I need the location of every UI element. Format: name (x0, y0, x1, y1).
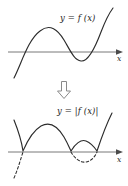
x-axis-label-original: x (117, 55, 121, 63)
graph-panel-absolute: y = |f (x)| x (0, 100, 128, 186)
function-label-absolute: y = |f (x)| (57, 107, 98, 116)
arrow-outline (58, 82, 71, 99)
transform-down-arrow-icon (54, 80, 74, 100)
graph-panel-original: y = f (x) x (0, 0, 128, 82)
function-label-original: y = f (x) (60, 14, 96, 23)
hollow-down-arrow-icon (54, 80, 74, 100)
curve-absolute-f-of-x (14, 113, 112, 151)
curve-f-of-x-dashed-below-axis (14, 152, 97, 178)
x-axis-label-absolute: x (117, 156, 121, 164)
math-figure-absolute-value-transform: y = f (x) x y = |f (x)| x (0, 0, 128, 186)
x-axis-arrowhead-absolute (116, 149, 123, 155)
